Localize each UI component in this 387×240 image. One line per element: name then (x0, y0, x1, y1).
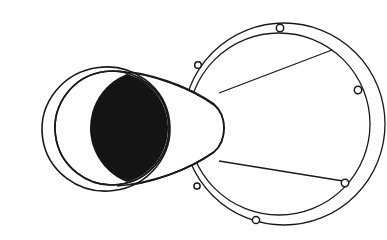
bolt-hole-top (276, 24, 283, 31)
technical-drawing: Conical horn with bolted flange ring (0, 0, 387, 240)
bolt-hole-lower-left (194, 183, 200, 189)
figure-root: Conical horn with bolted flange ring (0, 0, 387, 240)
bolt-hole-lower-right (341, 179, 348, 186)
bolt-hole-right (354, 86, 361, 93)
bolt-hole-upper-left (195, 62, 202, 69)
bolt-hole-bottom (252, 216, 259, 223)
